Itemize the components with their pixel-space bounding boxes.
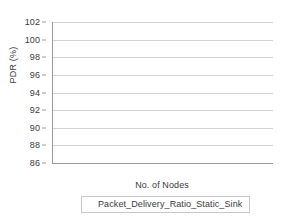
bar-chart: PDR (%) 86889092949698100102 No. of Node… bbox=[0, 0, 295, 224]
y-axis-tick-mark bbox=[42, 57, 46, 58]
y-axis-tick-mark bbox=[42, 92, 46, 93]
chart-legend: Packet_Delivery_Ratio_Static_Sink bbox=[81, 196, 250, 213]
gridline bbox=[53, 110, 273, 111]
x-axis-title: No. of Nodes bbox=[52, 180, 272, 190]
y-axis-tick-mark bbox=[42, 127, 46, 128]
y-axis-tick-mark bbox=[42, 110, 46, 111]
gridline bbox=[53, 128, 273, 129]
y-axis-tick-mark bbox=[42, 145, 46, 146]
y-axis-tick-label: 90 bbox=[30, 123, 40, 133]
y-axis-tick-label: 96 bbox=[30, 70, 40, 80]
y-axis-tick-mark bbox=[42, 22, 46, 23]
gridline bbox=[53, 40, 273, 41]
y-axis-tick-label: 98 bbox=[30, 52, 40, 62]
gridline bbox=[53, 145, 273, 146]
y-axis-tick-label: 92 bbox=[30, 105, 40, 115]
y-axis-tick-label: 86 bbox=[30, 158, 40, 168]
y-axis-tick-label: 100 bbox=[25, 35, 40, 45]
y-axis-tick-mark bbox=[42, 74, 46, 75]
y-axis-tick-mark bbox=[42, 39, 46, 40]
gridline bbox=[53, 22, 273, 23]
gridline bbox=[53, 93, 273, 94]
legend-label: Packet_Delivery_Ratio_Static_Sink bbox=[98, 199, 242, 209]
y-axis-tick-label: 88 bbox=[30, 140, 40, 150]
y-axis-tick-mark bbox=[42, 163, 46, 164]
y-axis-ticks: 86889092949698100102 bbox=[0, 22, 46, 163]
plot-area bbox=[52, 22, 273, 164]
gridline bbox=[53, 57, 273, 58]
gridline bbox=[53, 75, 273, 76]
y-axis-tick-label: 94 bbox=[30, 88, 40, 98]
legend-swatch-icon bbox=[88, 201, 94, 207]
y-axis-tick-label: 102 bbox=[25, 17, 40, 27]
